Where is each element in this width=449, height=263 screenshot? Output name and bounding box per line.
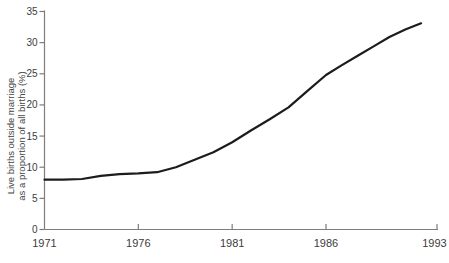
y-tick-label: 0 xyxy=(32,224,38,235)
x-tick-label: 1986 xyxy=(314,237,338,249)
y-tick-label: 20 xyxy=(26,99,38,110)
y-tick-label: 5 xyxy=(32,193,38,204)
y-tick-label: 10 xyxy=(26,162,38,173)
x-tick-label: 1981 xyxy=(220,237,244,249)
y-tick-label: 25 xyxy=(26,68,38,79)
x-tick-label: 1971 xyxy=(32,237,56,249)
data-line xyxy=(45,23,422,179)
y-tick-label: 15 xyxy=(26,131,38,142)
chart: Live births outside marriage as a propor… xyxy=(0,0,449,263)
y-tick-label: 30 xyxy=(26,37,38,48)
x-tick-label: 1993 xyxy=(422,237,446,249)
y-tick-label: 35 xyxy=(26,6,38,17)
x-tick-label: 1976 xyxy=(126,237,150,249)
line-plot-svg: 0510152025303519711976198119861993 xyxy=(0,0,449,263)
